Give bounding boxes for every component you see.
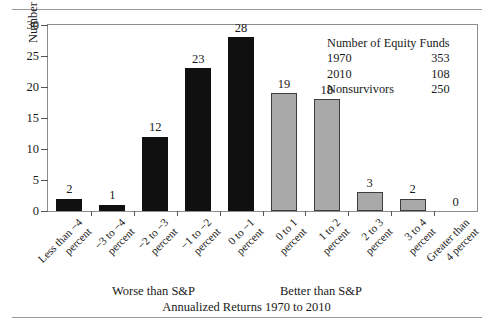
bar — [99, 205, 125, 211]
y-tick-mark — [41, 25, 48, 26]
y-tick-label: 0 — [33, 205, 39, 218]
annotation-row: 1970353 — [327, 51, 450, 66]
y-tick-mark — [41, 211, 48, 212]
bar-value-label: 3 — [367, 177, 373, 190]
bar-group: 28 — [220, 25, 263, 211]
bar-value-label: 12 — [149, 121, 162, 134]
y-tick-label: 20 — [27, 81, 40, 94]
y-tick-mark — [41, 149, 48, 150]
annotation-row-value: 353 — [423, 51, 450, 66]
bar — [271, 93, 297, 211]
x-tick-mark — [177, 211, 178, 216]
bar — [314, 99, 340, 211]
bar — [357, 192, 383, 211]
x-tick-mark — [391, 211, 392, 216]
y-tick-label: 5 — [33, 174, 39, 187]
y-tick-label: 25 — [27, 50, 40, 63]
bar-group: 2 — [48, 25, 91, 211]
bar-group: 19 — [263, 25, 306, 211]
y-tick-mark — [41, 87, 48, 88]
annotation-row-value: 250 — [423, 82, 450, 97]
y-tick-mark — [41, 56, 48, 57]
x-tick-mark — [91, 211, 92, 216]
y-tick-mark — [41, 118, 48, 119]
x-tick-mark — [134, 211, 135, 216]
x-tick-mark — [434, 211, 435, 216]
bar — [228, 37, 254, 211]
bar-value-label: 1 — [109, 189, 115, 202]
bar-value-label: 23 — [192, 53, 205, 66]
annotation-row: 2010108 — [327, 67, 450, 82]
x-tick-mark — [348, 211, 349, 216]
annotation-row-label: Nonsurvivors — [327, 82, 423, 97]
x-tick-mark — [305, 211, 306, 216]
y-tick-label: 10 — [27, 143, 40, 156]
x-axis-title: Annualized Returns 1970 to 2010 — [0, 300, 493, 315]
bar — [185, 68, 211, 211]
y-tick-label: 30 — [27, 19, 40, 32]
y-tick-label: 15 — [27, 112, 40, 125]
bar-group: 23 — [177, 25, 220, 211]
bar — [142, 137, 168, 211]
bar-value-label: 0 — [452, 196, 458, 209]
bar-value-label: 19 — [278, 78, 291, 91]
bar-group: 12 — [134, 25, 177, 211]
annotation-box: Number of Equity Funds 19703532010108Non… — [327, 36, 450, 98]
annotation-table: 19703532010108Nonsurvivors250 — [327, 51, 450, 97]
bar — [56, 199, 82, 211]
bar — [400, 199, 426, 211]
group-label-worse: Worse than S&P — [112, 284, 195, 299]
x-tick-mark — [220, 211, 221, 216]
x-tick-mark — [263, 211, 264, 216]
annotation-row: Nonsurvivors250 — [327, 82, 450, 97]
bar-value-label: 2 — [410, 183, 416, 196]
annotation-row-label: 1970 — [327, 51, 423, 66]
annotation-row-label: 2010 — [327, 67, 423, 82]
bar-group: 1 — [91, 25, 134, 211]
group-label-better: Better than S&P — [280, 284, 362, 299]
bottom-divider-rule — [12, 317, 482, 318]
annotation-row-value: 108 — [423, 67, 450, 82]
y-tick-mark — [41, 180, 48, 181]
annotation-title: Number of Equity Funds — [327, 36, 450, 51]
bar-value-label: 2 — [66, 183, 72, 196]
bar-value-label: 28 — [235, 22, 248, 35]
top-divider-rule — [12, 9, 482, 10]
